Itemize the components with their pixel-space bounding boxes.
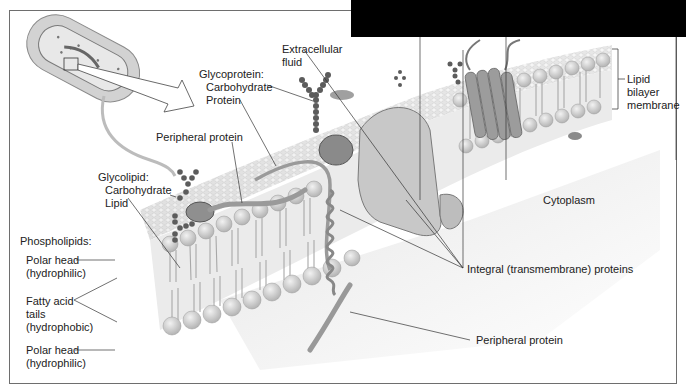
label-extracellular-fluid: Extracellular fluid <box>282 43 343 69</box>
redacted-region <box>351 0 686 37</box>
label-fatty-acid-tails: Fatty acid tails (hydrophobic) <box>26 295 93 334</box>
label-glycoprotein: Glycoprotein: Carbohydrate Protein <box>199 68 273 107</box>
small-protein-fragment <box>568 132 582 140</box>
label-integral-proteins: Integral (transmembrane) proteins <box>467 263 633 276</box>
bacterium-inset <box>17 5 194 176</box>
embedded-protein-blob <box>319 135 353 165</box>
label-polar-head-bottom: Polar head (hydrophilic) <box>26 344 86 370</box>
label-peripheral-protein-top: Peripheral protein <box>156 131 243 144</box>
label-peripheral-protein-bottom: Peripheral protein <box>476 334 563 347</box>
membrane-diagram: Extracellular fluid Glycoprotein: Carboh… <box>0 0 686 389</box>
label-cytoplasm: Cytoplasm <box>543 194 595 207</box>
label-glycolipid: Glycolipid: Carbohydrate Lipid <box>98 171 172 210</box>
label-phospholipids: Phospholipids: <box>20 235 92 248</box>
small-carbohydrate-chain <box>394 62 463 88</box>
small-surface-protein <box>330 90 354 100</box>
label-polar-head-top: Polar head (hydrophilic) <box>26 254 86 280</box>
glycoprotein-carbohydrate <box>299 72 331 133</box>
bilayer-bracket <box>612 49 625 109</box>
label-lipid-bilayer-membrane: Lipid bilayer membrane <box>627 73 680 112</box>
